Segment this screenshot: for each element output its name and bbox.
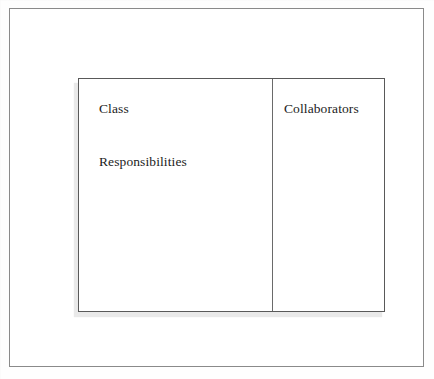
card-right-column: Collaborators: [273, 79, 384, 311]
card-left-column: Class Responsibilities: [79, 79, 273, 311]
class-label: Class: [99, 102, 129, 116]
responsibilities-label: Responsibilities: [99, 155, 187, 169]
crc-card: Class Responsibilities Collaborators: [78, 78, 385, 312]
collaborators-label: Collaborators: [284, 102, 359, 116]
crc-card-figure: Class Responsibilities Collaborators: [0, 0, 434, 379]
outer-frame: Class Responsibilities Collaborators: [9, 8, 424, 367]
